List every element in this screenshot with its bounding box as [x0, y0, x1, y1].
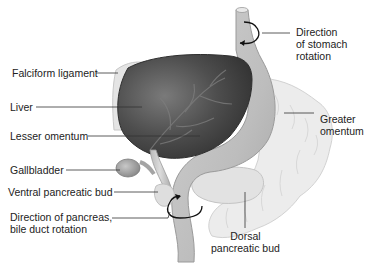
gallbladder-shape [116, 159, 140, 177]
label-gallbladder: Gallbladder [10, 164, 64, 176]
label-direction-stomach-rotation: Direction of stomach rotation [296, 26, 347, 62]
label-dorsal-pancreatic-bud: Dorsal pancreatic bud [211, 230, 280, 254]
anatomy-diagram: Falciform ligament Liver Lesser omentum … [0, 0, 366, 270]
label-direction-pancreas-rotation: Direction of pancreas, bile duct rotatio… [10, 211, 112, 235]
label-lesser-omentum: Lesser omentum [10, 130, 88, 142]
ventral-pancreatic-bud-shape [154, 184, 174, 206]
label-liver: Liver [10, 101, 33, 113]
esophagus-opening [236, 8, 248, 13]
label-falciform-ligament: Falciform ligament [12, 67, 98, 79]
label-greater-omentum: Greater omentum [320, 113, 364, 137]
cystic-duct-shape [140, 162, 154, 174]
label-ventral-pancreatic-bud: Ventral pancreatic bud [8, 186, 113, 198]
